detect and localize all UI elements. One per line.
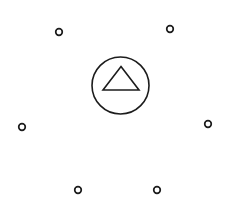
diagram-svg — [0, 0, 240, 210]
canvas-background — [0, 0, 240, 210]
diagram-canvas — [0, 0, 240, 210]
